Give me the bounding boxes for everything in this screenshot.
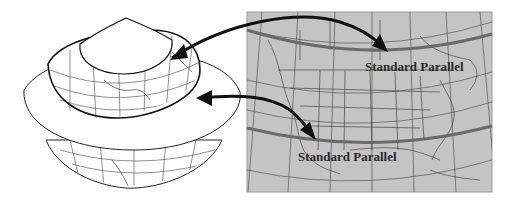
conic-map: Standard Parallel Standard Parallel xyxy=(247,12,496,192)
lower-standard-parallel-label: Standard Parallel xyxy=(298,149,397,164)
conic-projection-diagram: Standard Parallel Standard Parallel xyxy=(0,0,513,204)
globe-with-cone xyxy=(24,18,240,190)
upper-standard-parallel-label: Standard Parallel xyxy=(365,59,464,74)
